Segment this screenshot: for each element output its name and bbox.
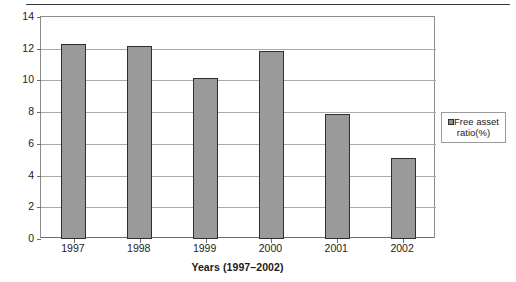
y-axis-tick-label: 10: [14, 74, 34, 84]
y-axis-tick-label: 0: [14, 233, 34, 243]
x-axis-title: Years (1997–2002): [40, 261, 435, 273]
y-axis-labels: 02468101214: [0, 0, 516, 282]
y-axis-tick-label: 8: [14, 106, 34, 116]
y-axis-tick-label: 4: [14, 170, 34, 180]
y-axis-tick-label: 2: [14, 201, 34, 211]
x-axis-tick-label: 1999: [175, 243, 235, 254]
y-axis-tick-label: 6: [14, 138, 34, 148]
square-marker-icon: [448, 119, 454, 125]
legend-item: Free asset ratio(%): [445, 116, 502, 138]
y-axis-tick-label: 12: [14, 43, 34, 53]
x-axis-tick-label: 2000: [240, 243, 300, 254]
bar-chart: 02468101214 Years (1997–2002) Free asset…: [0, 0, 516, 282]
x-axis-tick-label: 2001: [306, 243, 366, 254]
y-axis-tick-label: 14: [14, 11, 34, 21]
x-axis-tick-label: 2002: [372, 243, 432, 254]
x-axis-tick-label: 1998: [109, 243, 169, 254]
x-axis-tick-label: 1997: [43, 243, 103, 254]
chart-legend: Free asset ratio(%): [441, 112, 506, 143]
legend-item-label: Free asset ratio(%): [454, 116, 499, 138]
